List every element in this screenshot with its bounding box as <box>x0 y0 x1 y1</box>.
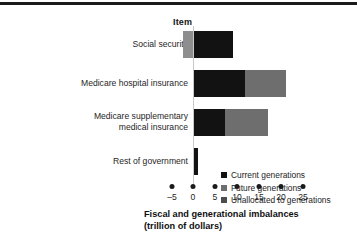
x-tick-marker <box>301 184 306 189</box>
bar-segment-future <box>245 70 286 97</box>
x-tick-marker <box>213 184 218 189</box>
x-axis-title-line1: Fiscal and generational imbalances <box>144 209 354 221</box>
bar-segment-current <box>194 70 245 97</box>
x-tick-marker <box>235 184 240 189</box>
chart-figure: Item Social security Medicare hospital i… <box>0 0 357 246</box>
bar-segment-future <box>225 109 268 136</box>
x-tick-label: 25 <box>288 192 318 202</box>
legend-swatch-icon <box>221 172 227 178</box>
top-rule <box>0 2 357 5</box>
category-label: Medicare supplementary medical insurance <box>18 111 188 133</box>
x-tick-marker <box>279 184 284 189</box>
category-label-line: Medicare supplementary <box>18 111 188 122</box>
category-label-line: medical insurance <box>18 122 188 133</box>
bar-segment-current <box>194 31 233 58</box>
bar-row: Medicare supplementary medical insurance <box>0 106 357 142</box>
bar-row: Social security <box>0 28 357 64</box>
x-axis-title-line2: (trillion of dollars) <box>144 221 354 233</box>
x-tick-marker <box>170 184 175 189</box>
x-axis: –5 0 5 10 15 20 25 <box>0 184 357 208</box>
legend-item-current: Current generations <box>221 169 357 182</box>
legend-label: Current generations <box>231 170 305 180</box>
x-axis-title: Fiscal and generational imbalances (tril… <box>144 209 354 232</box>
bar-row: Medicare hospital insurance <box>0 67 357 103</box>
bar-segment-unallocated <box>183 31 193 58</box>
x-tick-marker <box>257 184 262 189</box>
category-label: Medicare hospital insurance <box>18 78 188 89</box>
plot-area: Social security Medicare hospital insura… <box>0 26 357 184</box>
category-label: Rest of government <box>18 156 188 167</box>
bar-segment-current <box>194 109 225 136</box>
category-label: Social security <box>18 39 188 50</box>
bar-segment-current <box>194 148 198 175</box>
x-tick-marker <box>191 184 196 189</box>
